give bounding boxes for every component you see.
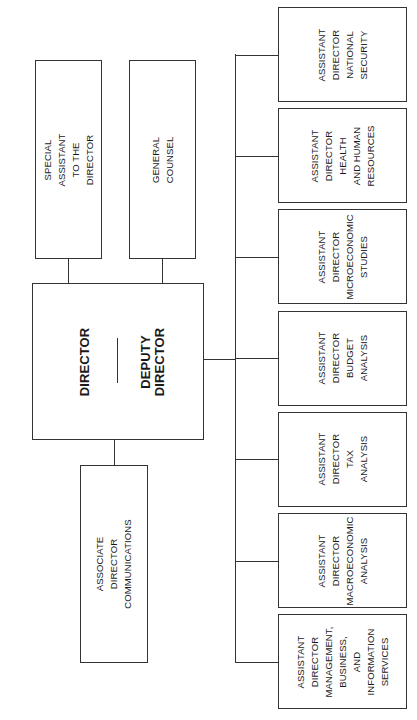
connector-assistant-director bbox=[235, 358, 278, 359]
connector-assistant-director bbox=[235, 561, 278, 562]
connector-director-bus bbox=[204, 359, 236, 360]
special-assistant-box: SPECIAL ASSISTANT TO THE DIRECTOR bbox=[35, 60, 102, 259]
associate-director-label: ASSOCIATE DIRECTOR COMMUNICATIONS bbox=[93, 519, 135, 608]
connector-special-assistant bbox=[68, 259, 69, 283]
assistant-director-label: ASSISTANT DIRECTOR MACROECONOMIC ANALYSI… bbox=[315, 516, 371, 605]
assistant-director-label: ASSISTANT DIRECTOR MICROECONOMIC STUDIES bbox=[315, 214, 371, 299]
assistant-director-label: ASSISTANT DIRECTOR HEALTH AND HUMAN RESO… bbox=[308, 125, 378, 186]
general-counsel-label: GENERAL COUNSEL bbox=[149, 136, 177, 183]
director-label: DIRECTOR bbox=[78, 327, 92, 395]
assistant-director-box: ASSISTANT DIRECTOR HEALTH AND HUMAN RESO… bbox=[278, 108, 407, 203]
associate-director-box: ASSOCIATE DIRECTOR COMMUNICATIONS bbox=[80, 465, 148, 663]
assistant-director-label: ASSISTANT DIRECTOR NATIONAL SECURITY bbox=[315, 28, 371, 81]
assistant-director-label: ASSISTANT DIRECTOR BUDGET ANALYSIS bbox=[315, 332, 371, 385]
connector-associate bbox=[114, 440, 115, 465]
assistant-director-box: ASSISTANT DIRECTOR MANAGEMENT, BUSINESS,… bbox=[278, 614, 407, 709]
connector-assistant-director bbox=[235, 459, 278, 460]
assistant-director-label: ASSISTANT DIRECTOR MANAGEMENT, BUSINESS,… bbox=[294, 626, 392, 697]
assistant-director-box: ASSISTANT DIRECTOR MACROECONOMIC ANALYSI… bbox=[278, 513, 407, 608]
deputy-director-label: DEPUTY DIRECTOR bbox=[139, 327, 167, 395]
assistant-director-box: ASSISTANT DIRECTOR NATIONAL SECURITY bbox=[278, 7, 407, 102]
general-counsel-box: GENERAL COUNSEL bbox=[129, 60, 196, 259]
assistant-director-box: ASSISTANT DIRECTOR BUDGET ANALYSIS bbox=[278, 311, 407, 406]
connector-assistant-director bbox=[235, 55, 278, 56]
connector-assistant-director bbox=[235, 662, 278, 663]
director-separator bbox=[117, 338, 118, 383]
connector-assistant-director bbox=[235, 257, 278, 258]
assistant-director-box: ASSISTANT DIRECTOR MICROECONOMIC STUDIES bbox=[278, 209, 407, 304]
connector-general-counsel bbox=[162, 259, 163, 283]
assistant-director-box: ASSISTANT DIRECTOR TAX ANALYSIS bbox=[278, 412, 407, 507]
assistant-director-label: ASSISTANT DIRECTOR TAX ANALYSIS bbox=[315, 433, 371, 486]
special-assistant-label: SPECIAL ASSISTANT TO THE DIRECTOR bbox=[41, 133, 97, 186]
connector-assistant-director bbox=[235, 156, 278, 157]
director-box: DIRECTOR DEPUTY DIRECTOR bbox=[32, 283, 204, 440]
